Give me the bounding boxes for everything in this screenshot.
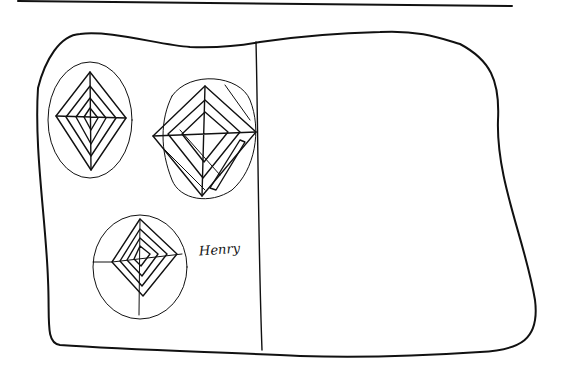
outer-frame-outline [37, 32, 536, 357]
top-rule-line [18, 1, 512, 6]
hand-drawn-sketch [0, 0, 576, 375]
diagram-bottom-left [93, 215, 187, 319]
diagram-top-right-of-left-panel [153, 79, 256, 199]
annotation-label-henry: Henry [199, 241, 241, 259]
panel-divider-line [256, 42, 262, 350]
diagram-top-left [48, 62, 132, 178]
